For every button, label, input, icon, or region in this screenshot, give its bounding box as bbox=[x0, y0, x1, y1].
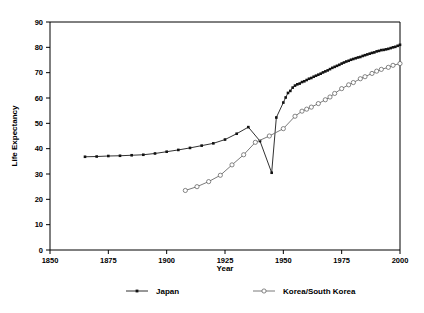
data-point-marker bbox=[154, 152, 157, 155]
data-point-marker bbox=[345, 60, 348, 63]
data-point-marker bbox=[378, 50, 381, 53]
data-point-marker bbox=[293, 114, 297, 118]
y-tick-label: 60 bbox=[35, 94, 43, 103]
x-axis-tick-group: 1850187519001925195019752000 bbox=[42, 250, 409, 265]
y-tick-label: 10 bbox=[35, 220, 43, 229]
life-expectancy-chart-figure: 0102030405060708090 18501875190019251950… bbox=[0, 0, 424, 313]
data-point-marker bbox=[382, 49, 385, 52]
data-point-marker bbox=[305, 107, 309, 111]
data-point-marker bbox=[340, 87, 344, 91]
data-point-marker bbox=[333, 91, 337, 95]
data-point-marker bbox=[130, 154, 133, 157]
data-point-marker bbox=[392, 46, 395, 49]
data-point-marker bbox=[281, 127, 285, 131]
y-tick-label: 20 bbox=[35, 195, 43, 204]
data-point-marker bbox=[308, 77, 311, 80]
data-point-marker bbox=[235, 132, 238, 135]
data-point-marker bbox=[270, 171, 273, 174]
data-point-marker bbox=[323, 98, 327, 102]
x-tick-label: 1975 bbox=[333, 256, 350, 265]
data-point-marker bbox=[300, 109, 304, 113]
data-point-marker bbox=[326, 69, 329, 72]
y-tick-label: 70 bbox=[35, 68, 43, 77]
data-point-marker bbox=[399, 44, 402, 47]
y-axis-title: Life Expectancy bbox=[10, 105, 19, 166]
data-point-marker bbox=[386, 65, 390, 69]
data-point-marker bbox=[298, 82, 301, 85]
data-point-marker bbox=[294, 84, 297, 87]
data-point-marker bbox=[370, 71, 374, 75]
legend-entry-2: Korea/South Korea bbox=[253, 287, 356, 296]
plot-frame bbox=[50, 22, 400, 250]
data-point-marker bbox=[107, 155, 110, 158]
data-point-marker bbox=[347, 59, 350, 62]
data-point-marker bbox=[338, 64, 341, 67]
data-point-marker bbox=[351, 80, 355, 84]
data-point-marker bbox=[291, 86, 294, 89]
data-series-group bbox=[84, 44, 402, 193]
data-point-marker bbox=[296, 83, 299, 86]
data-point-marker bbox=[350, 58, 353, 61]
data-point-marker bbox=[333, 66, 336, 69]
data-point-marker bbox=[354, 57, 357, 60]
data-point-marker bbox=[289, 90, 292, 93]
x-tick-label: 1875 bbox=[100, 256, 117, 265]
legend-entry-label: Japan bbox=[156, 287, 179, 296]
series-line bbox=[185, 64, 400, 191]
series-2 bbox=[183, 61, 402, 192]
data-point-marker bbox=[230, 163, 234, 167]
data-point-marker bbox=[340, 62, 343, 65]
data-point-marker bbox=[287, 92, 290, 95]
legend-entry-label: Korea/South Korea bbox=[283, 287, 356, 296]
data-point-marker bbox=[368, 52, 371, 55]
data-point-marker bbox=[253, 140, 257, 144]
data-point-marker bbox=[165, 150, 168, 153]
data-point-marker bbox=[212, 142, 215, 145]
data-point-marker bbox=[195, 185, 199, 189]
data-point-marker bbox=[396, 45, 399, 48]
data-point-marker bbox=[347, 83, 351, 87]
data-point-marker bbox=[177, 149, 180, 152]
data-point-marker bbox=[379, 67, 383, 71]
data-point-marker bbox=[267, 134, 271, 138]
data-point-marker bbox=[319, 72, 322, 75]
data-point-marker bbox=[387, 48, 390, 51]
data-point-marker bbox=[363, 75, 367, 79]
data-point-marker bbox=[357, 56, 360, 59]
data-point-marker bbox=[301, 81, 304, 84]
y-tick-label: 40 bbox=[35, 144, 43, 153]
y-tick-label: 30 bbox=[35, 170, 43, 179]
data-point-marker bbox=[309, 105, 313, 109]
data-point-marker bbox=[324, 70, 327, 73]
x-tick-label: 2000 bbox=[392, 256, 409, 265]
data-point-marker bbox=[375, 69, 379, 73]
data-point-marker bbox=[389, 47, 392, 50]
data-point-marker bbox=[359, 56, 362, 59]
data-point-marker bbox=[316, 101, 320, 105]
data-point-marker bbox=[364, 54, 367, 57]
data-point-marker bbox=[352, 58, 355, 61]
y-tick-label: 50 bbox=[35, 119, 43, 128]
x-tick-label: 1950 bbox=[275, 256, 292, 265]
data-point-marker bbox=[343, 61, 346, 64]
data-point-marker bbox=[303, 80, 306, 83]
legend-marker-icon bbox=[262, 289, 266, 293]
data-point-marker bbox=[224, 138, 227, 141]
data-point-marker bbox=[328, 95, 332, 99]
data-point-marker bbox=[394, 46, 397, 49]
data-point-marker bbox=[119, 154, 122, 157]
data-point-marker bbox=[95, 155, 98, 158]
data-point-marker bbox=[189, 147, 192, 150]
data-point-marker bbox=[371, 52, 374, 55]
data-point-marker bbox=[366, 53, 369, 56]
data-point-marker bbox=[183, 188, 187, 192]
data-point-marker bbox=[331, 67, 334, 70]
data-point-marker bbox=[380, 49, 383, 52]
y-tick-label: 0 bbox=[39, 246, 43, 255]
data-point-marker bbox=[247, 126, 250, 129]
data-point-marker bbox=[375, 50, 378, 53]
data-point-marker bbox=[329, 68, 332, 71]
chart-legend: JapanKorea/South Korea bbox=[126, 287, 356, 296]
data-point-marker bbox=[358, 77, 362, 81]
y-axis-tick-group: 0102030405060708090 bbox=[35, 18, 50, 255]
